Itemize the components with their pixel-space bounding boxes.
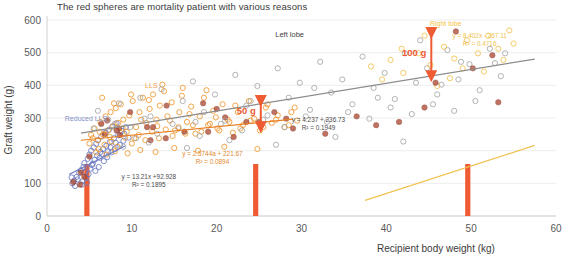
- r2-right-lobe: R² = 0.4716: [463, 40, 497, 47]
- point-left-lobe: [503, 51, 508, 56]
- point-right-lobe: [447, 76, 452, 81]
- series-label-right-lobe: Right lobe: [430, 20, 462, 28]
- point-left-lobe: [452, 108, 457, 113]
- y-axis-label: Graft weight (g): [3, 86, 14, 155]
- point-left-lobe: [190, 79, 195, 84]
- series-label-reduced-lls: Reduced LLS: [65, 115, 108, 122]
- equation-right-lobe: y = 8.402x - 267.11: [452, 32, 507, 40]
- point-lls: [108, 110, 113, 115]
- point-mortality: [150, 124, 155, 129]
- point-lls: [172, 145, 177, 150]
- y-tick-400: 400: [24, 80, 41, 91]
- point-mortality: [82, 174, 87, 179]
- point-left-lobe: [367, 116, 372, 121]
- point-mortality: [490, 53, 495, 58]
- point-lls: [147, 106, 152, 111]
- point-left-lobe: [498, 74, 503, 79]
- point-right-lobe: [501, 57, 506, 62]
- series-label-left-lobe: Left lobe: [275, 30, 304, 39]
- point-right-lobe: [441, 44, 446, 49]
- point-lls: [100, 95, 105, 100]
- point-right-lobe: [422, 33, 427, 38]
- x-tick-50: 50: [466, 223, 478, 234]
- point-lls: [292, 105, 297, 110]
- chart-figure: The red spheres are mortality patient wi…: [0, 0, 564, 258]
- point-left-lobe: [312, 85, 317, 90]
- point-lls: [146, 97, 151, 102]
- point-left-lobe: [375, 95, 380, 100]
- x-axis-label: Recipient body weight (kg): [377, 243, 495, 254]
- point-mortality: [71, 179, 76, 184]
- point-mortality: [144, 124, 149, 129]
- point-left-lobe: [340, 77, 345, 82]
- equation-left-lobe: y = 4.237 + 236.73: [292, 116, 346, 124]
- point-left-lobe: [413, 80, 418, 85]
- point-left-lobe: [275, 66, 280, 71]
- point-mortality: [496, 100, 501, 105]
- bar-50kg: [465, 164, 470, 216]
- point-lls: [87, 141, 92, 146]
- point-mortality: [433, 80, 438, 85]
- y-tick-500: 500: [24, 47, 41, 58]
- point-right-lobe: [388, 57, 393, 62]
- y-tick-0: 0: [35, 211, 41, 222]
- point-mortality: [373, 122, 378, 127]
- point-mortality: [127, 109, 132, 114]
- y-axis-ticks: 0100200300400500600: [24, 15, 41, 222]
- gap-100g-label: 100 g: [402, 47, 426, 58]
- point-left-lobe: [388, 105, 393, 110]
- point-right-lobe: [368, 64, 373, 69]
- point-left-lobe: [360, 54, 365, 59]
- point-mortality: [164, 103, 169, 108]
- point-lls: [189, 104, 194, 109]
- point-left-lobe: [392, 96, 397, 101]
- point-lls: [222, 144, 227, 149]
- point-right-lobe: [401, 70, 406, 75]
- point-lls: [177, 110, 182, 115]
- r2-left-lobe: R² = 0.1949: [302, 124, 336, 131]
- y-tick-600: 600: [24, 15, 41, 26]
- equation-lls: y = 2.5744a + 221.67: [182, 150, 243, 158]
- x-tick-20: 20: [211, 223, 223, 234]
- point-lls: [213, 115, 218, 120]
- point-left-lobe: [346, 110, 351, 115]
- x-tick-0: 0: [44, 223, 50, 234]
- y-tick-100: 100: [24, 178, 41, 189]
- point-left-lobe: [350, 102, 355, 107]
- x-axis-ticks: 0102030405060: [44, 223, 562, 234]
- scatter-plot-canvas: 0100200300400500600 0102030405060 Reduce…: [0, 0, 564, 258]
- point-lls: [220, 102, 225, 107]
- point-lls: [179, 93, 184, 98]
- point-left-lobe: [95, 108, 100, 113]
- r2-lls: R² = 0.0894: [196, 158, 230, 165]
- point-left-lobe: [318, 59, 323, 64]
- point-right-lobe: [452, 56, 457, 61]
- point-left-lobe: [409, 111, 414, 116]
- series-label-lls: LLS: [145, 82, 158, 89]
- y-tick-300: 300: [24, 113, 41, 124]
- point-right-lobe: [507, 28, 512, 33]
- x-tick-40: 40: [381, 223, 393, 234]
- point-mortality: [231, 134, 236, 139]
- point-mortality: [272, 109, 277, 114]
- point-right-lobe: [481, 69, 486, 74]
- point-left-lobe: [180, 98, 185, 103]
- point-lls: [125, 151, 130, 156]
- point-lls: [133, 125, 138, 130]
- point-lls: [204, 88, 209, 93]
- point-lls: [170, 133, 175, 138]
- point-left-lobe: [282, 125, 287, 130]
- point-mortality: [163, 136, 168, 141]
- point-right-lobe: [511, 41, 516, 46]
- point-lls: [153, 149, 158, 154]
- point-left-lobe: [233, 72, 238, 77]
- x-tick-30: 30: [296, 223, 308, 234]
- point-lls: [184, 119, 189, 124]
- point-left-lobe: [297, 80, 302, 85]
- point-left-lobe: [382, 70, 387, 75]
- point-left-lobe: [477, 88, 482, 93]
- point-right-lobe: [496, 46, 501, 51]
- point-left-lobe: [435, 92, 440, 97]
- point-mortality: [205, 129, 210, 134]
- point-lls: [201, 95, 206, 100]
